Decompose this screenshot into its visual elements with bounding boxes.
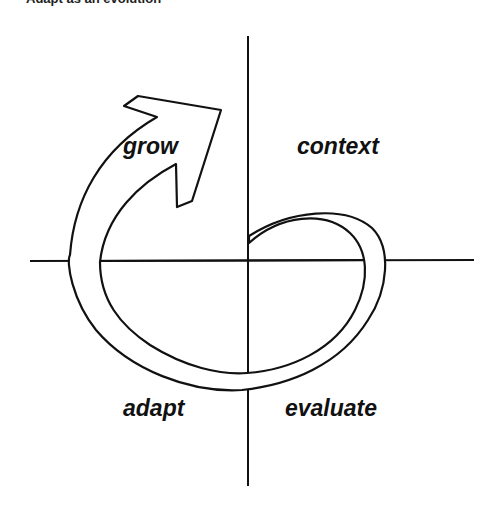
horizontal-axis-inner (100, 260, 365, 261)
quadrant-diagram (0, 0, 497, 506)
quadrant-label-grow: grow (123, 133, 178, 160)
quadrant-label-adapt: adapt (123, 395, 184, 422)
quadrant-label-context: context (297, 133, 379, 160)
quadrant-label-evaluate: evaluate (285, 395, 377, 422)
